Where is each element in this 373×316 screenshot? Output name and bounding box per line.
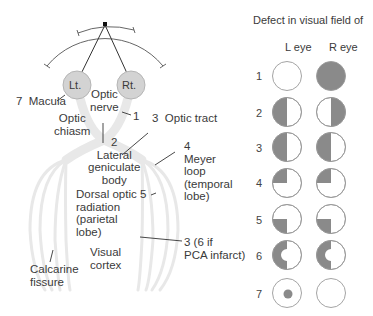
visual-pathway-figure: Lt. Rt. 7 Macula Optic nerve 1 Optic chi…	[0, 0, 373, 316]
defect-circle-macular-sparing	[273, 241, 302, 270]
defect-circle-full	[317, 62, 346, 91]
defect-circle-none	[273, 62, 302, 91]
defect-circle-macular-sparing	[317, 241, 346, 270]
defect-circle-none	[317, 279, 346, 308]
defect-circle-right-half	[317, 98, 346, 127]
defect-circle-upper-left-quadrant	[317, 169, 346, 198]
defect-circle-central-scotoma	[273, 279, 302, 308]
defect-circles	[0, 0, 373, 316]
defect-circle-left-half	[273, 133, 302, 162]
defect-circle-lower-left-quadrant	[273, 205, 302, 234]
defect-circle-left-half	[317, 133, 346, 162]
defect-circle-upper-left-quadrant	[273, 169, 302, 198]
defect-circle-left-half	[273, 98, 302, 127]
defect-circle-lower-left-quadrant	[317, 205, 346, 234]
